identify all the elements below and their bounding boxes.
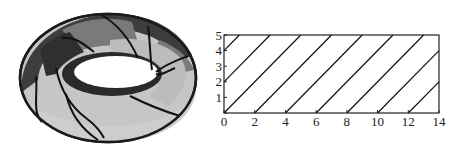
hatch-line xyxy=(408,82,439,113)
hatch-line xyxy=(378,51,439,113)
x-tick-label: 0 xyxy=(221,114,228,129)
x-tick-label: 10 xyxy=(371,114,384,129)
figure: 0246810121412345 xyxy=(0,0,462,147)
hatch-line xyxy=(285,35,362,113)
y-tick-label: 3 xyxy=(216,59,223,74)
x-tick-label: 8 xyxy=(344,114,351,129)
x-tick-label: 2 xyxy=(251,114,258,129)
y-tick-label: 2 xyxy=(216,74,223,89)
hatch-line xyxy=(255,35,332,113)
y-tick-label: 5 xyxy=(216,28,223,43)
x-tick-label: 6 xyxy=(313,114,320,129)
y-tick-label: 4 xyxy=(216,43,223,58)
hatch-line xyxy=(224,35,301,113)
x-tick-label: 12 xyxy=(402,114,415,129)
x-tick-label: 4 xyxy=(282,114,289,129)
plot-frame xyxy=(224,35,439,113)
hatch-line xyxy=(347,35,424,113)
y-tick-label: 1 xyxy=(216,90,223,105)
hatch-line xyxy=(224,35,270,82)
hatch-plot: 0246810121412345 xyxy=(216,28,447,130)
x-tick-label: 14 xyxy=(433,114,447,129)
hatch-line xyxy=(224,35,239,51)
hatch-line xyxy=(316,35,393,113)
torus-diagram xyxy=(20,14,196,142)
